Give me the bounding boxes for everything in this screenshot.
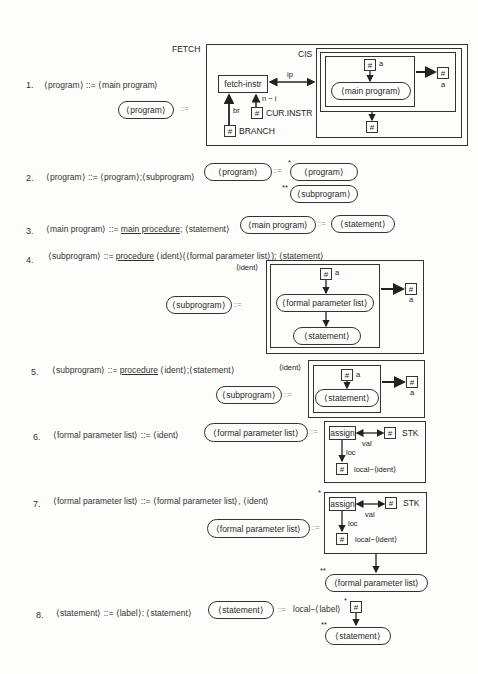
arrows-overlay [0, 0, 478, 674]
